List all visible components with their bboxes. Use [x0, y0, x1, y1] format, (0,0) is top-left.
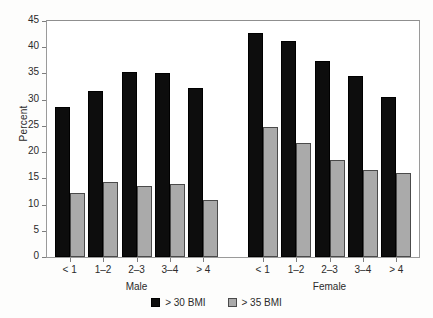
bar: [296, 143, 311, 257]
y-tick-label: 0: [33, 250, 39, 261]
y-tick-label: 20: [28, 145, 39, 156]
x-group-label: Male: [126, 281, 148, 292]
y-tick-mark: [42, 47, 46, 48]
bar: [248, 33, 263, 257]
bar: [137, 186, 152, 257]
x-tick-label: 1–2: [288, 264, 305, 275]
x-tick-label: < 1: [256, 264, 270, 275]
bar-chart: Percent 051015202530354045 < 11–22–33–4>…: [0, 0, 433, 318]
y-tick-mark: [42, 73, 46, 74]
y-tick: 25: [0, 126, 46, 127]
y-tick-mark: [42, 100, 46, 101]
bar: [330, 160, 345, 257]
x-tick-mark: [263, 258, 264, 262]
legend-item: > 30 BMI: [151, 297, 205, 308]
bar: [70, 193, 85, 258]
bar: [363, 170, 378, 257]
bar: [203, 200, 218, 257]
legend-label: > 35 BMI: [242, 297, 282, 308]
bar: [263, 127, 278, 257]
bar: [55, 107, 70, 258]
y-tick-label: 35: [28, 66, 39, 77]
y-tick-mark: [42, 152, 46, 153]
bar: [122, 72, 137, 257]
bar: [170, 184, 185, 257]
x-tick-mark: [203, 258, 204, 262]
y-tick-mark: [42, 231, 46, 232]
y-tick: 40: [0, 47, 46, 48]
y-tick-label: 5: [33, 224, 39, 235]
y-tick-mark: [42, 178, 46, 179]
x-tick-mark: [296, 258, 297, 262]
y-tick-label: 45: [28, 14, 39, 25]
x-group-label: Female: [313, 281, 346, 292]
bar: [88, 91, 103, 257]
y-tick: 45: [0, 21, 46, 22]
x-tick-mark: [396, 258, 397, 262]
x-tick-mark: [330, 258, 331, 262]
y-tick-mark: [42, 126, 46, 127]
y-tick: 15: [0, 178, 46, 179]
y-tick: 5: [0, 231, 46, 232]
y-tick-label: 40: [28, 40, 39, 51]
legend-label: > 30 BMI: [165, 297, 205, 308]
x-tick-label: 1–2: [95, 264, 112, 275]
y-tick-mark: [42, 21, 46, 22]
bar: [348, 76, 363, 257]
legend-item: > 35 BMI: [228, 297, 282, 308]
x-tick-mark: [137, 258, 138, 262]
legend-swatch-icon: [228, 298, 237, 307]
bar: [315, 61, 330, 257]
y-tick-label: 15: [28, 171, 39, 182]
x-tick-mark: [70, 258, 71, 262]
y-tick-mark: [42, 205, 46, 206]
y-tick: 30: [0, 100, 46, 101]
y-tick-mark: [42, 257, 46, 258]
y-tick-label: 25: [28, 119, 39, 130]
x-tick-label: 2–3: [128, 264, 145, 275]
bar: [103, 182, 118, 257]
x-tick-mark: [103, 258, 104, 262]
y-tick: 20: [0, 152, 46, 153]
x-tick-label: < 1: [63, 264, 77, 275]
y-tick: 10: [0, 205, 46, 206]
x-tick-label: 3–4: [162, 264, 179, 275]
bar: [381, 97, 396, 257]
x-tick-label: 3–4: [355, 264, 372, 275]
x-tick-label: 2–3: [321, 264, 338, 275]
x-tick-mark: [170, 258, 171, 262]
x-tick-label: > 4: [389, 264, 403, 275]
bar: [155, 73, 170, 257]
y-tick-label: 30: [28, 93, 39, 104]
bars-layer: [47, 21, 419, 257]
x-tick-label: > 4: [196, 264, 210, 275]
y-tick: 0: [0, 257, 46, 258]
bar: [281, 41, 296, 257]
y-tick: 35: [0, 73, 46, 74]
chart-legend: > 30 BMI> 35 BMI: [0, 297, 433, 308]
bar: [396, 173, 411, 257]
x-tick-mark: [363, 258, 364, 262]
bar: [188, 88, 203, 257]
legend-swatch-icon: [151, 298, 160, 307]
y-tick-label: 10: [28, 198, 39, 209]
